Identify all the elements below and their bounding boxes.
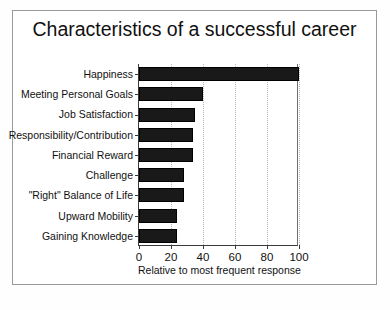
bar-row: "Right" Balance of Life <box>139 185 299 205</box>
x-tick-label: 80 <box>261 251 274 263</box>
bar-row: Responsibility/Contribution <box>139 125 299 145</box>
bar-row: Job Satisfaction <box>139 104 299 124</box>
x-tick-label: 20 <box>165 251 178 263</box>
gridline <box>299 64 300 245</box>
y-tick-label: Job Satisfaction <box>59 104 133 124</box>
bar <box>139 128 193 142</box>
x-tick-mark <box>203 245 204 249</box>
bar <box>139 229 177 243</box>
y-tick-mark <box>135 175 139 176</box>
y-tick-mark <box>135 74 139 75</box>
x-tick-mark <box>139 245 140 249</box>
y-tick-label: Financial Reward <box>52 145 133 165</box>
y-tick-mark <box>135 94 139 95</box>
bar-row: Meeting Personal Goals <box>139 84 299 104</box>
chart-title: Characteristics of a successful career <box>12 18 377 41</box>
bar <box>139 168 184 182</box>
bar-row: Happiness <box>139 64 299 84</box>
bar <box>139 87 203 101</box>
x-tick-mark <box>267 245 268 249</box>
y-tick-mark <box>135 115 139 116</box>
y-tick-mark <box>135 236 139 237</box>
bar <box>139 209 177 223</box>
bar <box>139 67 299 81</box>
bar <box>139 108 195 122</box>
x-tick-label: 60 <box>229 251 242 263</box>
x-tick-mark <box>235 245 236 249</box>
y-tick-label: "Right" Balance of Life <box>29 185 133 205</box>
x-tick-label: 40 <box>197 251 210 263</box>
bar-row: Gaining Knowledge <box>139 226 299 246</box>
bar-row: Challenge <box>139 165 299 185</box>
bar <box>139 188 184 202</box>
plot-area: HappinessMeeting Personal GoalsJob Satis… <box>138 64 298 246</box>
bar-row: Financial Reward <box>139 145 299 165</box>
y-tick-mark <box>135 195 139 196</box>
y-tick-label: Challenge <box>86 165 133 185</box>
x-tick-label: 0 <box>136 251 142 263</box>
x-tick-mark <box>171 245 172 249</box>
y-tick-mark <box>135 135 139 136</box>
y-tick-label: Gaining Knowledge <box>42 226 133 246</box>
y-tick-label: Happiness <box>83 64 133 84</box>
y-tick-label: Upward Mobility <box>58 206 133 226</box>
chart-figure: Characteristics of a successful career H… <box>0 0 390 310</box>
x-axis-label: Relative to most frequent response <box>138 264 298 276</box>
x-tick-label: 100 <box>289 251 308 263</box>
y-tick-label: Responsibility/Contribution <box>9 125 133 145</box>
bar <box>139 148 193 162</box>
x-tick-mark <box>299 245 300 249</box>
bar-row: Upward Mobility <box>139 206 299 226</box>
y-tick-mark <box>135 216 139 217</box>
y-tick-label: Meeting Personal Goals <box>21 84 133 104</box>
y-tick-mark <box>135 155 139 156</box>
